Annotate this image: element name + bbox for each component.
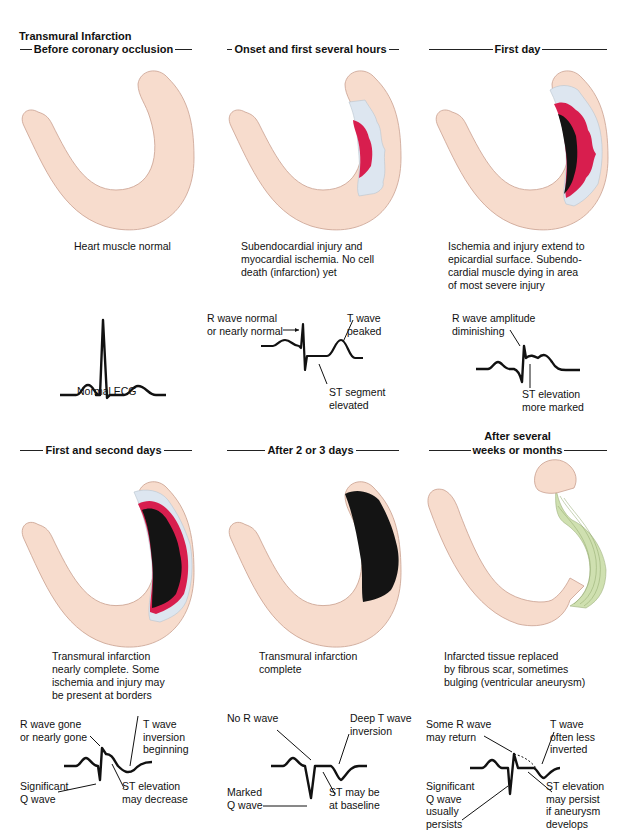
ecg-label-t-wave: T wave inversion beginning xyxy=(143,718,189,756)
ecg-label-st-segment: ST segment elevated xyxy=(329,386,385,411)
panel-first-second-days: First and second days Transmural infarct… xyxy=(0,410,207,830)
ecg-label-st-baseline: ST may be at baseline xyxy=(329,786,380,811)
panel-caption: Transmural infarction nearly complete. S… xyxy=(52,650,165,702)
ecg-label-t-wave: T wave often less inverted xyxy=(550,718,595,756)
ecg-label-st-elevation: ST elevation may decrease xyxy=(122,780,188,805)
ecg-label-t-wave: Deep T wave inversion xyxy=(350,712,411,737)
ecg-label-r-wave: R wave amplitude diminishing xyxy=(452,312,535,337)
panel-first-day: First day Ischemia and injury extend to … xyxy=(414,0,621,410)
panel-before-occlusion: Before coronary occlusion Heart muscle n… xyxy=(0,0,207,410)
ecg-label-q-wave: Marked Q wave xyxy=(227,786,263,811)
panel-caption: Ischemia and injury extend to epicardial… xyxy=(448,240,585,292)
infarction-zone xyxy=(345,491,399,602)
heart-diagram-first-day xyxy=(414,0,622,410)
ecg-label-t-wave: T wave peaked xyxy=(347,312,381,337)
arrow-head xyxy=(295,328,299,332)
panel-caption: Infarcted tissue replaced by fibrous sca… xyxy=(444,650,585,689)
arrow-no-r-wave xyxy=(277,730,311,760)
panel-onset-first-hours: Onset and first several hours Subendocar… xyxy=(207,0,414,410)
ecg-label-r-wave: Some R wave may return xyxy=(426,718,491,743)
ecg-label-q-wave: Significant Q wave xyxy=(20,780,68,805)
ecg-label-r-wave: R wave gone or nearly gone xyxy=(20,718,87,743)
panel-after-2-3-days: After 2 or 3 days Transmural infarction … xyxy=(207,410,414,830)
ecg-label-no-r-wave: No R wave xyxy=(227,712,278,725)
heart-diagram-weeks-months xyxy=(414,410,622,830)
ecg-trace-first-day xyxy=(476,346,580,382)
arrow-t-wave xyxy=(130,716,138,766)
ecg-label-q-wave: Significant Q wave usually persists xyxy=(426,780,474,830)
heart-diagram-first-second-days xyxy=(0,410,207,830)
panel-caption: Heart muscle normal xyxy=(74,240,171,253)
ecg-label-st-elevation: ST elevation may persist if aneurysm dev… xyxy=(546,780,604,830)
panel-weeks-months: After several weeks or months Infarcted … xyxy=(414,410,621,830)
heart-diagram-onset xyxy=(207,0,414,410)
heart-diagram-normal xyxy=(0,0,207,410)
ecg-label-r-wave: R wave normal or nearly normal xyxy=(207,312,283,337)
heart-muscle xyxy=(22,71,194,230)
arrow-t-wave xyxy=(339,734,349,764)
arrow-st-segment xyxy=(319,364,327,384)
panel-caption: Subendocardial injury and myocardial isc… xyxy=(241,240,374,279)
ecg-caption: Normal ECG xyxy=(77,385,137,398)
panel-caption: Transmural infarction complete xyxy=(259,650,357,676)
arrow-r-wave xyxy=(90,736,100,746)
heart-muscle-apex xyxy=(535,460,577,494)
ecg-trace-first-second-days xyxy=(64,748,152,780)
heart-diagram-after-2-3-days xyxy=(207,410,414,830)
